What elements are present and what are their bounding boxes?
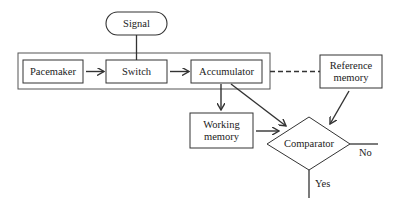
- reference-to-comparator-arrow: [330, 91, 349, 124]
- accumulator-label: Accumulator: [199, 66, 254, 77]
- comparator-label: Comparator: [284, 138, 335, 149]
- signal-label: Signal: [123, 18, 150, 29]
- reference-memory-label-line2: memory: [334, 72, 370, 83]
- working-memory-label-line2: memory: [204, 131, 240, 142]
- diagram-canvas: Signal Pacemaker Switch Accumulator Refe…: [0, 0, 398, 208]
- reference-memory-label-line1: Reference: [330, 60, 373, 71]
- switch-label: Switch: [122, 66, 152, 77]
- working-memory-label-line1: Working: [203, 119, 240, 130]
- no-label: No: [359, 147, 372, 158]
- pacemaker-label: Pacemaker: [30, 66, 77, 77]
- yes-label: Yes: [315, 178, 330, 189]
